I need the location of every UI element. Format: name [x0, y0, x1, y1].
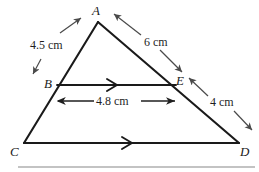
measure-label-ed: 4 cm: [210, 96, 234, 108]
triangle-figure: [0, 0, 259, 172]
vertex-label-d: D: [240, 145, 249, 158]
measure-label-ab: 4.5 cm: [30, 39, 63, 51]
vertex-label-c: C: [10, 145, 19, 158]
measure-arrow-ae-lower-icon: [160, 50, 182, 72]
diagram-canvas: A B C D E 4.5 cm 6 cm 4 cm 4.8 cm: [0, 0, 259, 172]
measure-arrow-ab-upper-icon: [60, 18, 81, 33]
side-AD: [98, 22, 239, 143]
measure-arrow-ed-lower-icon: [234, 111, 252, 130]
measure-arrow-ed-upper-icon: [189, 78, 208, 96]
measure-label-ae: 6 cm: [144, 36, 168, 48]
vertex-label-e: E: [176, 74, 184, 87]
vertex-label-a: A: [92, 4, 100, 17]
measure-arrow-ab-lower-icon: [33, 59, 41, 74]
measure-label-be: 4.8 cm: [94, 95, 131, 107]
vertex-label-b: B: [44, 77, 52, 90]
measure-arrow-ae-upper-icon: [114, 14, 141, 35]
